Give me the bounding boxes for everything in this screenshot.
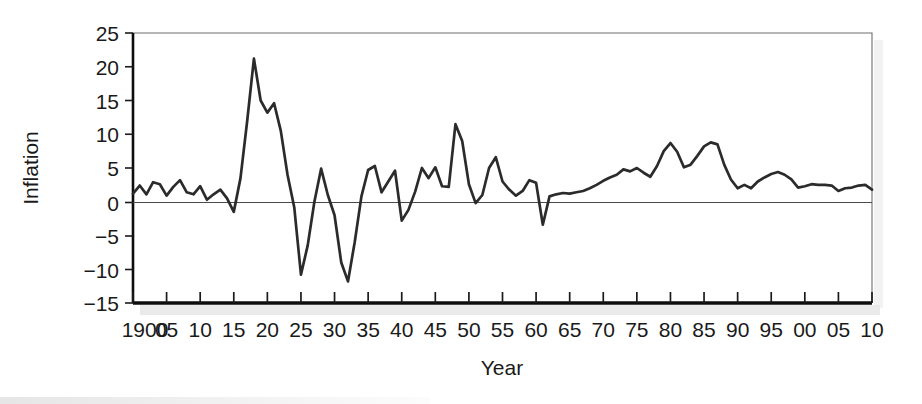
y-tick-label-0: 0	[107, 192, 119, 215]
x-tick-label-10: 10	[860, 318, 883, 341]
x-tick-label-75: 75	[625, 318, 648, 341]
x-tick-label-20: 20	[256, 318, 279, 341]
x-tick-label-30: 30	[323, 318, 346, 341]
y-tick-label-minus10: −10	[83, 259, 119, 282]
y-axis-title: Inflation	[19, 131, 42, 205]
x-tick-label-40: 40	[390, 318, 413, 341]
x-tick-label-65: 65	[558, 318, 581, 341]
x-tick-label-70: 70	[592, 318, 615, 341]
y-tick-label-minus15: −15	[83, 292, 119, 315]
x-tick-label-90: 90	[726, 318, 749, 341]
x-tick-label-50: 50	[457, 318, 480, 341]
inflation-line-chart: 25 20 15 10 5 0 −5 −10 −15 Inflation 190…	[0, 0, 922, 404]
x-tick-label-05: 05	[155, 318, 178, 341]
x-tick-label-60: 60	[524, 318, 547, 341]
y-tick-label-10: 10	[96, 123, 119, 146]
x-tick-label-15: 15	[222, 318, 245, 341]
inflation-chart-figure: 25 20 15 10 5 0 −5 −10 −15 Inflation 190…	[0, 0, 922, 404]
axis-drop-shadow	[140, 305, 880, 315]
x-tick-label-80: 80	[659, 318, 682, 341]
x-tick-label-95: 95	[760, 318, 783, 341]
frame-right-shadow	[874, 40, 883, 308]
x-axis-title: Year	[481, 356, 523, 379]
y-tick-label-20: 20	[96, 56, 119, 79]
x-tick-label-35: 35	[356, 318, 379, 341]
y-tick-label-15: 15	[96, 90, 119, 113]
x-tick-label-45: 45	[424, 318, 447, 341]
page-edge-artifact	[0, 397, 430, 404]
x-tick-label-00: 00	[793, 318, 816, 341]
x-tick-label-25: 25	[289, 318, 312, 341]
x-tick-labels: 1900051015202530354045505560657075808590…	[122, 318, 884, 341]
y-tick-label-minus5: −5	[95, 225, 119, 248]
x-tick-label-05: 05	[827, 318, 850, 341]
x-tick-label-10: 10	[189, 318, 212, 341]
x-tick-label-55: 55	[491, 318, 514, 341]
y-tick-label-5: 5	[107, 157, 119, 180]
x-tick-label-85: 85	[692, 318, 715, 341]
y-tick-label-25: 25	[96, 22, 119, 45]
